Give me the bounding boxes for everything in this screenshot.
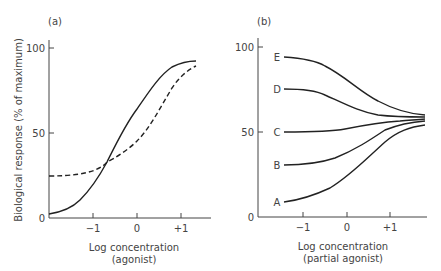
x-tick-label-p1: +1 <box>383 222 398 233</box>
figure: (a) 100 50 0 −1 0 +1 Log concentration (… <box>0 0 441 271</box>
x-tick-label-p1: +1 <box>174 223 189 234</box>
curve-e <box>284 57 425 115</box>
panel-a-label: (a) <box>48 16 62 27</box>
curve-d <box>284 89 425 117</box>
agonist-solid-curve <box>49 61 196 214</box>
y-tick-label-100: 100 <box>26 43 45 54</box>
panel-a: (a) 100 50 0 −1 0 +1 Log concentration (… <box>13 16 211 265</box>
curve-label-b: B <box>274 160 281 171</box>
y-axis-title: Biological response (% of maximum) <box>13 38 24 222</box>
x-axis-subtitle: (partial agonist) <box>303 253 383 264</box>
x-axis-title: Log concentration <box>298 241 388 252</box>
panel-b-label: (b) <box>257 16 271 27</box>
y-tick-label-0: 0 <box>39 213 45 224</box>
agonist-dashed-curve <box>49 66 196 176</box>
y-tick-label-0: 0 <box>248 212 254 223</box>
x-axis-title: Log concentration <box>89 242 179 253</box>
x-tick-label-0: 0 <box>344 222 350 233</box>
x-tick-label-0: 0 <box>134 223 140 234</box>
panel-b: (b) 100 50 0 −1 0 +1 Log concentration (… <box>235 16 427 264</box>
y-tick-label-50: 50 <box>241 127 254 138</box>
x-tick-label-m1: −1 <box>86 223 101 234</box>
y-tick-label-50: 50 <box>32 128 45 139</box>
x-tick-label-m1: −1 <box>296 222 311 233</box>
curve-label-a: A <box>274 197 281 208</box>
x-axis-subtitle: (agonist) <box>112 254 157 265</box>
curve-label-d: D <box>273 84 281 95</box>
y-tick-label-100: 100 <box>235 42 254 53</box>
curve-label-e: E <box>274 52 280 63</box>
curve-label-c: C <box>274 127 281 138</box>
